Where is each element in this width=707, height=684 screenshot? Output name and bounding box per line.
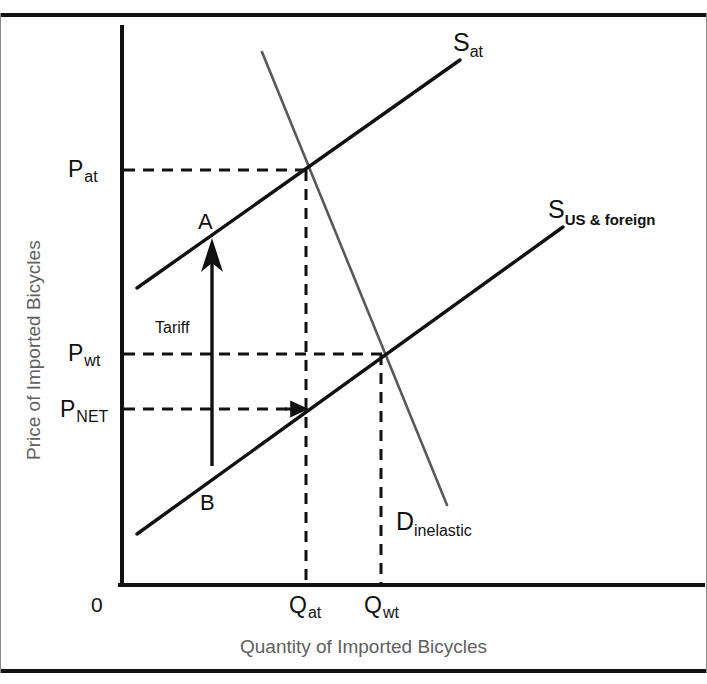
price-label-p-wt-base: P xyxy=(68,340,83,366)
curve-label-supply-after-tariff: Sat xyxy=(453,30,483,55)
price-label-p-net-base: P xyxy=(60,396,75,422)
curve-label-d-sub: inelastic xyxy=(414,522,472,539)
demand-curve-inelastic xyxy=(262,52,447,505)
curve-label-s-at-sub: at xyxy=(470,43,483,60)
price-label-p-wt-sub: wt xyxy=(84,352,100,369)
price-label-p-net: PNET xyxy=(60,398,107,421)
quantity-label-q-at-base: Q xyxy=(289,592,307,618)
quantity-label-q-at-sub: at xyxy=(308,604,321,621)
quantity-label-q-wt-base: Q xyxy=(364,592,382,618)
x-axis-title: Quantity of Imported Bicycles xyxy=(240,637,487,656)
point-label-a: A xyxy=(198,211,213,233)
quantity-label-q-wt: Qwt xyxy=(364,594,398,617)
curve-label-supply-us-foreign: SUS & foreign xyxy=(548,197,656,222)
curve-label-s-us-sub: US & foreign xyxy=(565,211,656,228)
price-label-p-at-base: P xyxy=(68,156,83,182)
quantity-label-q-wt-sub: wt xyxy=(383,604,399,621)
quantity-label-q-at: Qat xyxy=(289,594,320,617)
price-label-p-net-sub: NET xyxy=(76,408,108,425)
point-label-b: B xyxy=(200,492,215,514)
tariff-annotation-label: Tariff xyxy=(155,320,189,336)
origin-label: 0 xyxy=(91,594,103,615)
price-label-p-at: Pat xyxy=(68,158,97,181)
curve-label-demand-inelastic: Dinelastic xyxy=(396,509,472,534)
curve-label-s-us-base: S xyxy=(548,195,565,223)
price-label-p-at-sub: at xyxy=(84,168,97,185)
y-axis-title: Price of Imported Bicycles xyxy=(24,240,43,460)
curve-label-s-at-base: S xyxy=(453,28,470,56)
plot-area xyxy=(0,0,707,684)
economics-diagram-figure: Price of Imported Bicycles Quantity of I… xyxy=(0,0,707,684)
price-label-p-wt: Pwt xyxy=(68,342,99,365)
supply-curve-after-tariff xyxy=(137,60,460,288)
curve-label-d-base: D xyxy=(396,507,414,535)
supply-curve-us-and-foreign xyxy=(137,227,563,534)
